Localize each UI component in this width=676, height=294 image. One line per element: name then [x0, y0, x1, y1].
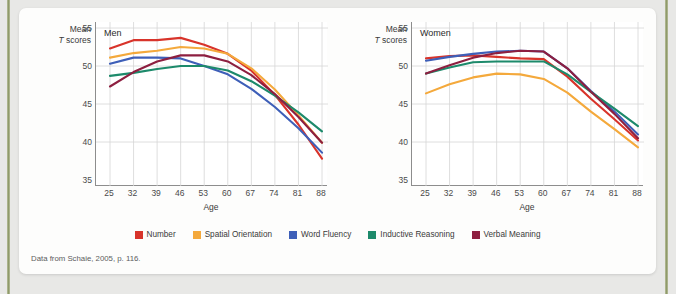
- y-tick-50: 50: [399, 61, 408, 71]
- plot-area-women: Women3540455055: [411, 22, 643, 186]
- page-edge-rule-left: [7, 0, 10, 294]
- legend-label: Inductive Reasoning: [380, 230, 454, 239]
- x-tick-39: 39: [151, 188, 160, 198]
- legend-item-inductive-reasoning: Inductive Reasoning: [368, 230, 454, 239]
- y-tick-35: 35: [399, 175, 408, 185]
- y-tick-35: 35: [83, 175, 92, 185]
- plot-wrap-men: Men3540455055 Age 25323946536067748188: [95, 22, 327, 200]
- x-tick-53: 53: [198, 188, 207, 198]
- source-note: Data from Schaie, 2005, p. 116.: [31, 254, 141, 263]
- x-tick-32: 32: [128, 188, 137, 198]
- legend-swatch-icon: [472, 231, 480, 239]
- legend-item-spatial-orientation: Spatial Orientation: [193, 230, 272, 239]
- x-axis-label-men: Age: [95, 202, 327, 212]
- panel-title-men: Men: [104, 28, 122, 38]
- legend-item-word-fluency: Word Fluency: [289, 230, 351, 239]
- x-tick-25: 25: [104, 188, 113, 198]
- series-line-spatial-orientation: [110, 47, 322, 143]
- chart-legend: NumberSpatial OrientationWord FluencyInd…: [19, 230, 656, 239]
- series-line-number: [110, 38, 322, 159]
- x-tick-74: 74: [585, 188, 594, 198]
- y-tick-50: 50: [83, 61, 92, 71]
- x-tick-39: 39: [467, 188, 476, 198]
- x-tick-25: 25: [420, 188, 429, 198]
- legend-item-verbal-meaning: Verbal Meaning: [472, 230, 541, 239]
- x-axis-label-women: Age: [411, 202, 643, 212]
- x-tick-53: 53: [514, 188, 523, 198]
- y-tick-55: 55: [83, 23, 92, 33]
- x-tick-32: 32: [444, 188, 453, 198]
- legend-label: Number: [147, 230, 176, 239]
- y-tick-45: 45: [83, 99, 92, 109]
- legend-swatch-icon: [368, 231, 376, 239]
- panel-title-women: Women: [420, 28, 451, 38]
- x-tick-88: 88: [316, 188, 325, 198]
- x-tick-81: 81: [609, 188, 618, 198]
- y-tick-40: 40: [399, 137, 408, 147]
- x-tick-81: 81: [293, 188, 302, 198]
- x-tick-60: 60: [538, 188, 547, 198]
- legend-item-number: Number: [135, 230, 176, 239]
- legend-swatch-icon: [135, 231, 143, 239]
- figure-card: Mean T scores Men3540455055 Age 25323946…: [19, 8, 656, 274]
- page-edge-rule-right: [665, 0, 668, 294]
- x-tick-46: 46: [175, 188, 184, 198]
- legend-swatch-icon: [193, 231, 201, 239]
- y-tick-45: 45: [399, 99, 408, 109]
- x-tick-60: 60: [222, 188, 231, 198]
- series-line-inductive-reasoning: [426, 61, 638, 126]
- x-tick-67: 67: [246, 188, 255, 198]
- legend-label: Verbal Meaning: [484, 230, 541, 239]
- series-line-spatial-orientation: [426, 74, 638, 148]
- y-tick-40: 40: [83, 137, 92, 147]
- legend-label: Word Fluency: [301, 230, 351, 239]
- series-line-verbal-meaning: [426, 51, 638, 138]
- figure: Mean T scores Men3540455055 Age 25323946…: [19, 8, 656, 274]
- x-tick-88: 88: [632, 188, 641, 198]
- x-tick-74: 74: [269, 188, 278, 198]
- plot-area-men: Men3540455055: [95, 22, 327, 186]
- legend-label: Spatial Orientation: [205, 230, 272, 239]
- x-tick-46: 46: [491, 188, 500, 198]
- series-line-number: [426, 55, 638, 140]
- y-axis-title-scores: scores: [64, 35, 91, 45]
- y-axis-title-scores: scores: [380, 35, 407, 45]
- plot-wrap-women: Women3540455055 Age 25323946536067748188: [411, 22, 643, 200]
- x-tick-67: 67: [562, 188, 571, 198]
- legend-swatch-icon: [289, 231, 297, 239]
- y-tick-55: 55: [399, 23, 408, 33]
